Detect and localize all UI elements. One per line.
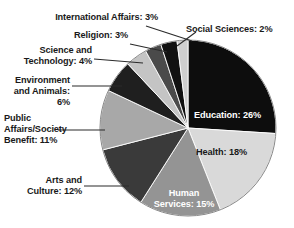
slice-label-arts-culture: Arts and Culture: 12%	[8, 175, 82, 197]
slice-label-public-affairs: Public Affairs/Society Benefit: 11%	[4, 113, 84, 147]
slice-label-human-services: Human Services: 15%	[138, 188, 230, 210]
slice-label-social-sciences: Social Sciences: 2%	[186, 24, 292, 35]
slice-label-religion: Religion: 3%	[28, 30, 128, 41]
slice-label-environment-animals: Environment and Animals: 6%	[2, 75, 70, 109]
slice-label-international-affairs: International Affairs: 3%	[18, 12, 158, 23]
slice-label-health: Health: 18%	[196, 147, 286, 158]
pie-chart: International Affairs: 3% Social Science…	[0, 0, 294, 228]
slice-label-science-technology: Science and Technology: 4%	[6, 45, 92, 67]
slice-label-education: Education: 26%	[194, 110, 290, 121]
